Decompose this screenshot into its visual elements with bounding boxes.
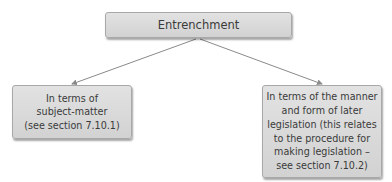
edge-root-to-manner-and-form <box>200 39 322 84</box>
child-node-label: In terms of the manner and form of later… <box>266 90 377 173</box>
root-node-entrenchment: Entrenchment <box>105 12 292 38</box>
child-node-subject-matter: In terms of subject-matter (see section … <box>12 85 132 139</box>
child-node-label: In terms of subject-matter (see section … <box>24 92 119 133</box>
child-node-manner-and-form: In terms of the manner and form of later… <box>262 85 382 178</box>
edge-root-to-subject-matter <box>72 39 196 84</box>
root-node-label: Entrenchment <box>158 18 240 32</box>
